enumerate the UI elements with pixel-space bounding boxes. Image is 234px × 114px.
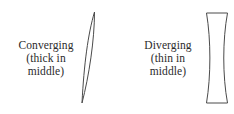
biconcave-lens-svg [202,6,232,110]
diverging-label-line-1: Diverging [124,39,212,52]
biconvex-lens-svg [80,6,104,110]
biconvex-lens-outline [82,12,95,103]
diverging-label-line-2: (thin in [124,52,212,65]
lens-diagram: Converging (thick in middle) Diverging (… [0,0,234,114]
biconcave-lens-icon [202,6,232,110]
diverging-label-line-3: middle) [124,65,212,78]
converging-label-line-2: (thick in [2,52,90,65]
converging-label: Converging (thick in middle) [2,39,90,79]
biconvex-lens-icon [80,6,104,110]
diverging-label: Diverging (thin in middle) [124,39,212,79]
converging-label-line-3: middle) [2,65,90,78]
biconcave-lens-outline [207,13,228,103]
converging-label-line-1: Converging [2,39,90,52]
